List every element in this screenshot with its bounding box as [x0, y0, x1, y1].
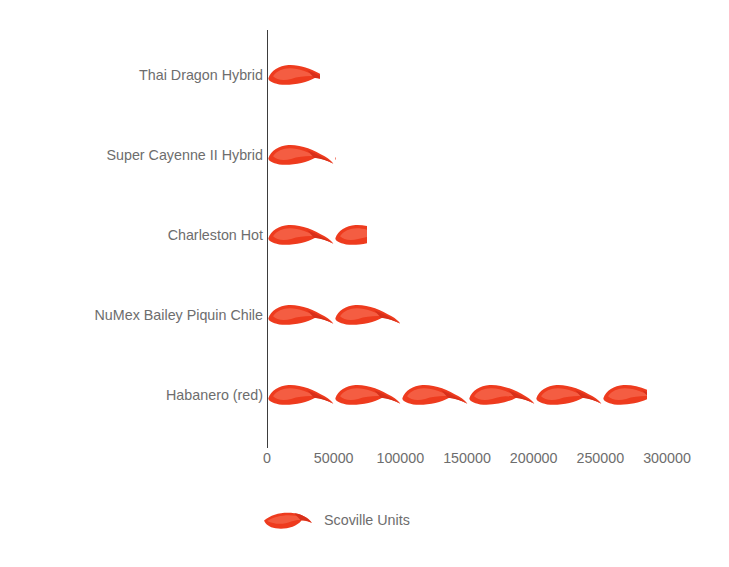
plot-area: Thai Dragon HybridSuper Cayenne II Hybri… — [0, 0, 729, 567]
bar-row: Super Cayenne II Hybrid — [0, 127, 729, 183]
category-label-3: Charleston Hot — [0, 207, 263, 263]
x-tick-label: 150000 — [443, 450, 491, 468]
pictogram-bar — [267, 127, 336, 183]
pictogram-bar — [267, 47, 320, 103]
x-tick-label: 300000 — [643, 450, 691, 468]
category-label-text: Habanero (red) — [166, 388, 263, 402]
category-label-text: Super Cayenne II Hybrid — [106, 148, 263, 162]
category-label-2: Super Cayenne II Hybrid — [0, 127, 263, 183]
legend-label: Scoville Units — [324, 513, 410, 527]
chart-legend: Scoville Units — [262, 505, 410, 535]
x-tick-label: 200000 — [510, 450, 558, 468]
x-tick-label: 50000 — [314, 450, 354, 468]
category-label-text: Charleston Hot — [168, 228, 263, 242]
bar-row: Habanero (red) — [0, 367, 729, 423]
pepper-glyph-strip — [267, 138, 336, 172]
category-label-5: Habanero (red) — [0, 367, 263, 423]
category-label-text: Thai Dragon Hybrid — [139, 68, 263, 82]
pepper-glyph-strip — [267, 298, 400, 332]
pictogram-bar — [267, 367, 647, 423]
scoville-pictogram-chart: Thai Dragon HybridSuper Cayenne II Hybri… — [0, 0, 729, 567]
pepper-glyph-strip — [267, 378, 647, 412]
x-tick-label: 0 — [263, 450, 271, 468]
chili-pepper-icon — [262, 507, 314, 533]
pepper-glyph-strip — [267, 58, 320, 92]
x-axis-tick-labels: 050000100000150000200000250000300000 — [0, 450, 729, 470]
bar-row: Charleston Hot — [0, 207, 729, 263]
bar-row: Thai Dragon Hybrid — [0, 47, 729, 103]
bar-row: NuMex Bailey Piquin Chile — [0, 287, 729, 343]
category-label-4: NuMex Bailey Piquin Chile — [0, 287, 263, 343]
pictogram-bar — [267, 287, 400, 343]
pictogram-bar — [267, 207, 367, 263]
category-label-text: NuMex Bailey Piquin Chile — [95, 308, 263, 322]
x-tick-label: 250000 — [576, 450, 624, 468]
category-label-1: Thai Dragon Hybrid — [0, 47, 263, 103]
pepper-glyph-strip — [267, 218, 367, 252]
x-tick-label: 100000 — [376, 450, 424, 468]
